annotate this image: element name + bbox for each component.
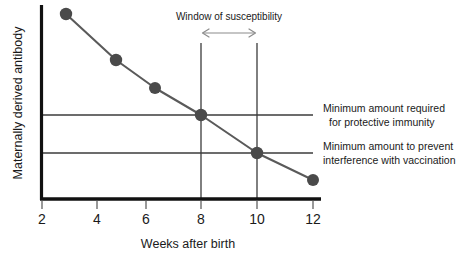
protective-immunity-label-line-1: Minimum amount required [323, 102, 445, 114]
x-tick-label-10: 10 [249, 211, 265, 227]
series-maternally-derived-antibody [60, 8, 319, 186]
prevent-interference-label-line-2: interference with vaccination [323, 154, 456, 166]
x-tick-label-6: 6 [142, 211, 150, 227]
x-tick-labels: 2 4 6 8 10 12 [38, 211, 321, 227]
protective-immunity-label-line-2: for protective immunity [329, 116, 435, 128]
series-line [66, 14, 313, 180]
reference-lines-group [41, 43, 313, 200]
x-axis-ticks [42, 200, 313, 209]
prevent-interference-label-line-1: Minimum amount to prevent [323, 140, 453, 152]
x-tick-label-2: 2 [38, 211, 46, 227]
data-point [149, 82, 161, 94]
data-point [307, 174, 319, 186]
chart-canvas: 2 4 6 8 10 12 Weeks after birth Maternal… [0, 0, 466, 257]
annotation-prevent-interference: Minimum amount to prevent interference w… [323, 140, 456, 166]
x-tick-label-4: 4 [93, 211, 101, 227]
data-point [110, 54, 122, 66]
x-axis-title: Weeks after birth [141, 237, 235, 251]
annotation-protective-immunity: Minimum amount required for protective i… [323, 102, 445, 128]
y-axis-title: Maternally derived antibody [11, 26, 25, 180]
double-headed-arrow-icon [203, 29, 256, 37]
axes-group [40, 5, 321, 209]
data-point [251, 147, 263, 159]
annotation-window-of-susceptibility: Window of susceptibility [176, 11, 282, 37]
data-point [60, 8, 72, 20]
window-of-susceptibility-label: Window of susceptibility [176, 11, 282, 22]
x-tick-label-8: 8 [197, 211, 205, 227]
data-point [195, 109, 207, 121]
chart-figure: 2 4 6 8 10 12 Weeks after birth Maternal… [0, 0, 466, 257]
x-tick-label-12: 12 [305, 211, 321, 227]
